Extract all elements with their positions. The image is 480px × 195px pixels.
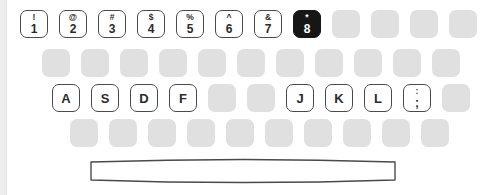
key-digit-5[interactable]: %5 [176, 10, 204, 38]
key-semicolon[interactable]: :; [403, 84, 431, 112]
key-lower-blank-10[interactable] [421, 119, 449, 147]
key-legend-bottom: L [374, 92, 382, 105]
key-digit-3[interactable]: #3 [98, 10, 126, 38]
key-upper-blank-2[interactable] [81, 49, 109, 77]
key-lower-blank-1[interactable] [70, 119, 98, 147]
key-lower-blank-9[interactable] [382, 119, 410, 147]
key-number-blank-2[interactable] [371, 10, 399, 38]
key-home-blank-2[interactable] [247, 84, 275, 112]
key-digit-7[interactable]: &7 [254, 10, 282, 38]
key-legend-bottom: 5 [187, 22, 194, 35]
key-letter-k[interactable]: K [325, 84, 353, 112]
keyboard-row-home: ASDFJKL:; [52, 84, 470, 114]
key-letter-s[interactable]: S [91, 84, 119, 112]
key-upper-blank-8[interactable] [315, 49, 343, 77]
key-letter-l[interactable]: L [364, 84, 392, 112]
key-lower-blank-5[interactable] [226, 119, 254, 147]
key-home-blank-3[interactable] [442, 84, 470, 112]
key-legend-top: : [416, 87, 419, 96]
key-legend-bottom: S [101, 92, 110, 105]
key-digit-1[interactable]: !1 [20, 10, 48, 38]
key-letter-d[interactable]: D [130, 84, 158, 112]
key-digit-2[interactable]: @2 [59, 10, 87, 38]
key-legend-top: ^ [227, 13, 232, 22]
key-letter-f[interactable]: F [169, 84, 197, 112]
key-lower-blank-6[interactable] [265, 119, 293, 147]
key-upper-blank-11[interactable] [432, 49, 460, 77]
key-digit-8[interactable]: *8 [293, 10, 321, 38]
key-lower-blank-8[interactable] [343, 119, 371, 147]
key-upper-blank-10[interactable] [393, 49, 421, 77]
key-upper-blank-4[interactable] [159, 49, 187, 77]
key-legend-bottom: K [334, 92, 343, 105]
key-legend-top: # [110, 13, 115, 22]
key-upper-blank-7[interactable] [276, 49, 304, 77]
on-screen-keyboard: !1@2#3$4%5^6&7*8 ASDFJKL:; [0, 0, 480, 195]
space-bar-key[interactable] [88, 157, 398, 185]
left-edge-band [0, 0, 7, 195]
key-legend-bottom: 4 [148, 22, 155, 35]
key-legend-top: % [186, 13, 194, 22]
key-legend-top: * [305, 13, 308, 22]
key-upper-blank-9[interactable] [354, 49, 382, 77]
key-legend-top: @ [69, 13, 77, 22]
key-legend-bottom: 3 [109, 22, 116, 35]
key-legend-bottom: ; [415, 96, 419, 109]
key-legend-top: & [265, 13, 271, 22]
keyboard-row-number: !1@2#3$4%5^6&7*8 [20, 10, 477, 40]
key-legend-bottom: F [179, 92, 187, 105]
key-legend-bottom: 8 [304, 22, 311, 35]
key-number-blank-3[interactable] [410, 10, 438, 38]
key-legend-bottom: A [61, 92, 70, 105]
key-legend-bottom: 2 [70, 22, 77, 35]
key-number-blank-1[interactable] [332, 10, 360, 38]
keyboard-row-upper [42, 49, 460, 79]
key-legend-bottom: J [296, 92, 303, 105]
key-upper-blank-1[interactable] [42, 49, 70, 77]
keyboard-row-lower [70, 119, 449, 149]
key-legend-bottom: D [139, 92, 148, 105]
key-upper-blank-5[interactable] [198, 49, 226, 77]
key-digit-4[interactable]: $4 [137, 10, 165, 38]
key-legend-bottom: 1 [31, 22, 38, 35]
key-home-blank-1[interactable] [208, 84, 236, 112]
key-legend-bottom: 7 [265, 22, 272, 35]
key-number-blank-4[interactable] [449, 10, 477, 38]
key-lower-blank-7[interactable] [304, 119, 332, 147]
key-digit-6[interactable]: ^6 [215, 10, 243, 38]
key-legend-bottom: 6 [226, 22, 233, 35]
key-legend-top: $ [149, 13, 154, 22]
key-upper-blank-6[interactable] [237, 49, 265, 77]
key-lower-blank-3[interactable] [148, 119, 176, 147]
key-upper-blank-3[interactable] [120, 49, 148, 77]
key-letter-a[interactable]: A [52, 84, 80, 112]
key-lower-blank-2[interactable] [109, 119, 137, 147]
keyboard-row-space [88, 157, 398, 185]
key-letter-j[interactable]: J [286, 84, 314, 112]
key-lower-blank-4[interactable] [187, 119, 215, 147]
key-legend-top: ! [33, 13, 36, 22]
